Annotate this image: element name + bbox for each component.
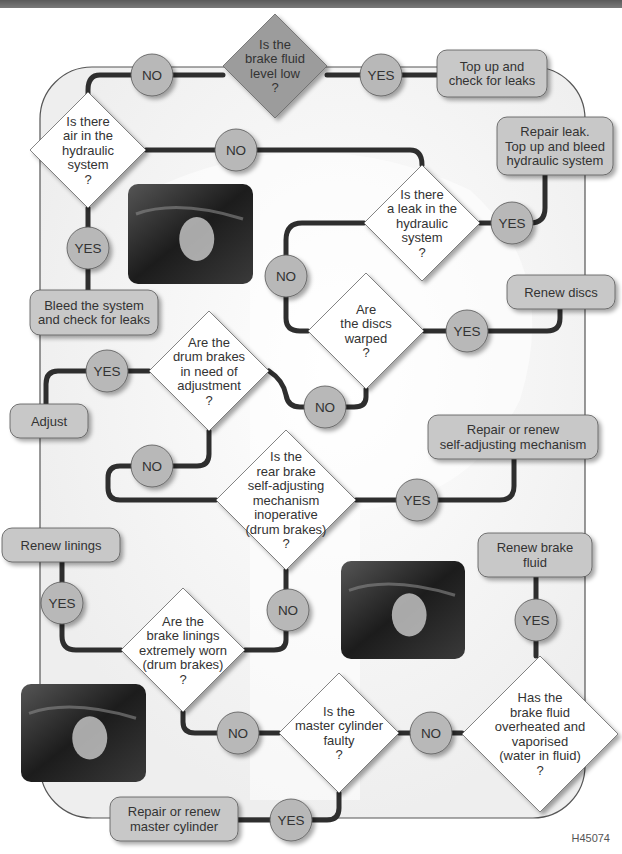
photo-highlight <box>72 716 107 759</box>
connector-no: NO <box>304 386 346 428</box>
figure-id: H45074 <box>571 832 610 844</box>
flowchart: Is thebrake fluidlevel low?Is thereair i… <box>0 0 622 854</box>
node-text: Adjust <box>31 414 68 429</box>
photo-highlight <box>392 593 427 636</box>
action-renew-master: Repair or renewmaster cylinder <box>110 797 238 841</box>
connector-label: YES <box>403 493 430 508</box>
connector-no: NO <box>131 445 173 487</box>
connector-yes: YES <box>491 202 533 244</box>
connector-label: YES <box>367 68 394 83</box>
connector-label: NO <box>228 726 248 741</box>
connector-label: YES <box>453 324 480 339</box>
connector-label: YES <box>93 364 120 379</box>
connector-yes: YES <box>446 310 488 352</box>
connector-no: NO <box>131 54 173 96</box>
connector-label: YES <box>74 241 101 256</box>
action-renew-discs: Renew discs <box>507 275 615 309</box>
reservoir-photo <box>128 184 253 284</box>
connector-label: NO <box>142 459 162 474</box>
node-text: Repair or renewmaster cylinder <box>128 804 221 834</box>
node-text: Renew discs <box>524 285 598 300</box>
action-top-up: Top up andcheck for leaks <box>437 50 547 97</box>
connector-label: NO <box>315 400 335 415</box>
action-adjust: Adjust <box>10 404 88 438</box>
connector-label: YES <box>48 596 75 611</box>
connector-label: NO <box>421 726 441 741</box>
action-repair-leak: Repair leak.Top up and bleedhydraulic sy… <box>497 117 613 175</box>
connector-yes: YES <box>270 799 312 841</box>
photo-highlight <box>179 217 214 261</box>
action-bleed: Bleed the systemand check for leaks <box>30 290 158 335</box>
connector-label: NO <box>226 143 246 158</box>
node-text: Is therear brakeself-adjustingmechanismi… <box>246 449 327 551</box>
node-text: Renew linings <box>21 538 102 553</box>
connector-yes: YES <box>67 227 109 269</box>
connector-yes: YES <box>396 479 438 521</box>
action-renew-linings: Renew linings <box>2 528 120 562</box>
connector-label: YES <box>522 613 549 628</box>
connector-label: NO <box>276 269 296 284</box>
connector-no: NO <box>265 255 307 297</box>
connector-yes: YES <box>86 350 128 392</box>
action-renew-fluid: Renew brakefluid <box>478 533 592 577</box>
connector-yes: YES <box>360 54 402 96</box>
drum-photo <box>21 684 146 782</box>
connector-no: NO <box>267 589 309 631</box>
connector-label: YES <box>498 216 525 231</box>
fluid-check-photo <box>341 561 465 659</box>
connector-label: YES <box>277 813 304 828</box>
connector-label: NO <box>278 603 298 618</box>
action-renew-self-adjust: Repair or renewself-adjusting mechanism <box>428 415 598 459</box>
connector-no: NO <box>217 712 259 754</box>
node-text: Top up andcheck for leaks <box>449 59 536 89</box>
connector-label: NO <box>142 68 162 83</box>
connector-yes: YES <box>41 582 83 624</box>
connector-yes: YES <box>515 599 557 641</box>
node-text: Bleed the systemand check for leaks <box>38 298 151 328</box>
connector-no: NO <box>410 712 452 754</box>
connector-no: NO <box>215 129 257 171</box>
